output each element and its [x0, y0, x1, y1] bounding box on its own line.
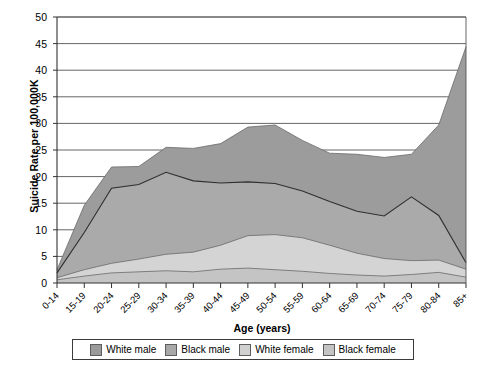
legend-item[interactable]: White male: [90, 344, 156, 356]
legend-swatch-icon: [239, 344, 251, 356]
legend-item[interactable]: Black female: [323, 344, 396, 356]
y-tick-label: 15: [17, 198, 47, 208]
legend-swatch-icon: [165, 344, 177, 356]
y-tick-label: 25: [17, 145, 47, 155]
stacked-areas: [57, 47, 466, 283]
y-tick-label: 10: [17, 225, 47, 235]
legend-item-label: Black male: [181, 344, 230, 355]
legend-item-label: White male: [106, 344, 156, 355]
legend-item[interactable]: White female: [239, 344, 313, 356]
legend-item-label: Black female: [339, 344, 396, 355]
legend-item[interactable]: Black male: [165, 344, 230, 356]
y-tick-label: 5: [17, 251, 47, 261]
y-tick-label: 30: [17, 118, 47, 128]
y-tick-label: 0: [17, 278, 47, 288]
y-tick-label: 35: [17, 92, 47, 102]
suicide-rate-area-chart: Suicide Rate per 100,000K Age (years) 05…: [0, 0, 486, 365]
legend-item-label: White female: [255, 344, 313, 355]
y-tick-label: 20: [17, 172, 47, 182]
chart-legend: White maleBlack maleWhite femaleBlack fe…: [72, 339, 414, 360]
y-tick-label: 50: [17, 12, 47, 22]
legend-swatch-icon: [90, 344, 102, 356]
y-tick-label: 45: [17, 39, 47, 49]
x-axis-title: Age (years): [57, 322, 467, 334]
y-tick-label: 40: [17, 65, 47, 75]
legend-swatch-icon: [323, 344, 335, 356]
